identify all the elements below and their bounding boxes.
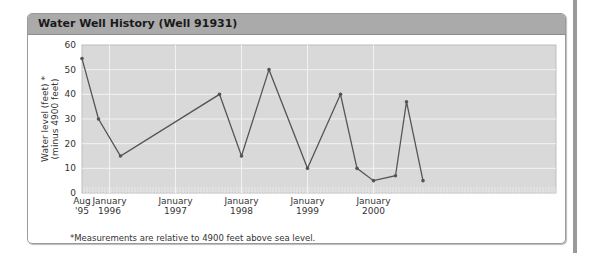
y-tick-label: 20: [65, 139, 77, 149]
x-tick-label: '95: [75, 206, 89, 216]
x-tick-label: 1999: [296, 206, 319, 216]
x-tick-label: 2000: [362, 206, 385, 216]
data-point: [80, 57, 84, 61]
data-point: [97, 117, 101, 121]
data-point: [267, 68, 271, 72]
footnote: *Measurements are relative to 4900 feet …: [70, 233, 315, 243]
x-tick-label: January: [91, 196, 127, 206]
data-point: [421, 179, 425, 183]
data-point: [119, 154, 123, 158]
x-tick-label: January: [223, 196, 259, 206]
chart-panel: Water Well History (Well 91931) 01020304…: [27, 13, 566, 244]
data-point: [339, 93, 343, 97]
x-tick-label: January: [157, 196, 193, 206]
y-tick-label: 40: [65, 89, 77, 99]
data-point: [240, 154, 244, 158]
y-tick-label: 50: [65, 65, 77, 75]
data-point: [306, 167, 310, 171]
x-tick-label: January: [289, 196, 325, 206]
svg-text:Water level (feet) *: Water level (feet) *: [40, 76, 50, 162]
data-point: [405, 100, 409, 104]
y-tick-label: 10: [65, 163, 77, 173]
svg-text:(minus 4900 feet): (minus 4900 feet): [50, 79, 60, 160]
x-tick-label: Aug: [73, 196, 91, 206]
page-divider: [573, 0, 577, 253]
line-chart: 0102030405060Aug'95January1996January199…: [28, 14, 565, 243]
data-point: [394, 174, 398, 178]
data-point: [355, 167, 359, 171]
y-tick-label: 30: [65, 114, 77, 124]
y-tick-label: 60: [65, 40, 77, 50]
x-tick-label: 1997: [164, 206, 187, 216]
data-point: [372, 179, 376, 183]
x-tick-label: January: [355, 196, 391, 206]
x-tick-label: 1998: [230, 206, 253, 216]
x-tick-label: 1996: [98, 206, 121, 216]
data-point: [218, 93, 222, 97]
y-axis-label: Water level (feet) *(minus 4900 feet): [40, 76, 60, 162]
